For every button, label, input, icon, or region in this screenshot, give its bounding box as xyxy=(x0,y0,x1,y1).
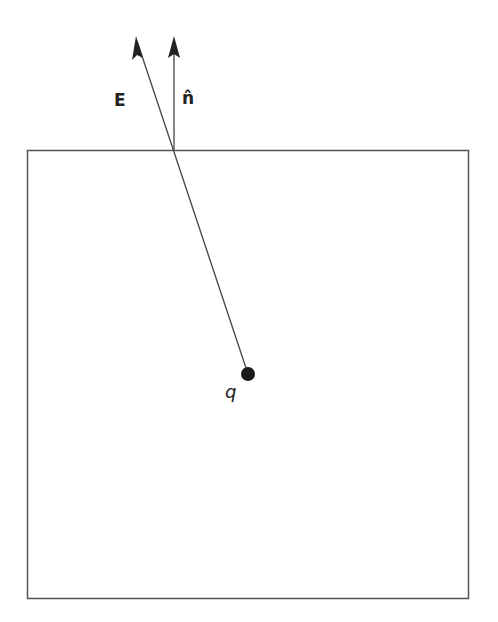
field-arrowhead-icon xyxy=(132,36,143,60)
charge-point xyxy=(241,367,255,381)
gauss-surface-diagram xyxy=(0,0,498,622)
charge-label: q xyxy=(225,381,236,402)
field-label: E xyxy=(114,90,126,110)
normal-label: n̂ xyxy=(182,88,194,108)
